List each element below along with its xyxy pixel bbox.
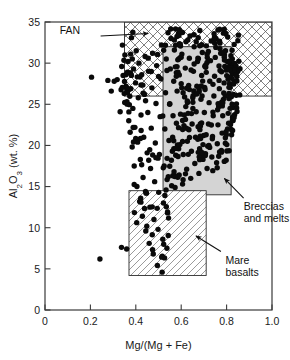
data-point [170,135,175,140]
data-point [122,52,127,57]
data-point [180,177,185,182]
y-tick-label: 20 [28,139,40,151]
data-point [145,110,150,115]
data-point [226,85,231,90]
data-point [149,85,154,90]
data-point [223,135,228,140]
data-point [229,48,234,53]
data-point [136,60,141,65]
x-tick-label: 0.4 [128,315,143,327]
data-point [204,60,209,65]
data-point [183,171,188,176]
data-point [139,162,144,167]
data-point [210,136,215,141]
data-point [159,269,164,274]
data-point [105,78,110,83]
data-point [129,35,134,40]
data-point [194,91,199,96]
data-point [206,100,211,105]
data-point [152,179,157,184]
data-point [138,199,143,204]
data-point [146,241,151,246]
data-point [214,160,219,165]
data-point [191,32,196,37]
data-point [153,140,158,145]
data-point [146,158,151,163]
y-tick-label: 10 [28,222,40,234]
data-point [223,31,228,36]
data-point [173,42,178,47]
data-point [163,43,168,48]
data-point [226,120,231,125]
data-point [120,85,125,90]
x-tick-label: 1.0 [265,315,280,327]
data-point [215,122,220,127]
data-point [178,55,183,60]
data-point [197,157,202,162]
x-tick-label: 0.2 [83,315,98,327]
data-point [134,220,139,225]
data-point [209,154,214,159]
data-point [167,101,172,106]
data-point [149,69,154,74]
data-point [173,146,178,151]
data-point [130,56,135,61]
data-point [164,177,169,182]
data-point [138,128,143,133]
data-point [227,58,232,63]
data-point [166,215,171,220]
scatter-plot-figure: 00.20.40.60.81.0 05101520253035 FANBrecc… [0,0,290,360]
y-tick-label: 25 [28,98,40,110]
data-point [127,130,132,135]
data-point [174,73,179,78]
data-point [204,166,209,171]
data-point [153,155,158,160]
data-point [171,169,176,174]
data-point [119,64,124,69]
chart-canvas: 00.20.40.60.81.0 05101520253035 FANBrecc… [0,0,290,360]
data-point [231,115,236,120]
data-point [196,171,201,176]
data-point [234,109,239,114]
data-point [188,176,193,181]
data-point [133,80,138,85]
data-point [234,78,239,83]
data-point [213,45,218,50]
data-point [144,224,149,229]
data-point [202,110,207,115]
data-point [150,247,155,252]
data-point [134,48,139,53]
x-tick-label: 0.8 [219,315,234,327]
data-point [183,65,188,70]
data-point [143,190,148,195]
data-point [167,164,172,169]
data-point [128,51,133,56]
data-point [172,185,177,190]
data-point [155,52,160,57]
data-point [140,90,145,95]
data-point [190,106,195,111]
data-point [223,140,228,145]
data-point [184,167,189,172]
data-point [138,157,143,162]
data-point [140,82,145,87]
data-point [119,245,124,250]
data-point [132,163,137,168]
data-point [142,206,147,211]
y-tick-label: 0 [34,304,40,316]
data-point [222,57,227,62]
data-point [143,228,148,233]
data-point [206,49,211,54]
data-point [217,40,222,45]
data-point [178,42,183,47]
data-point [153,101,158,106]
data-point [170,113,175,118]
data-point [195,137,200,142]
label-mare-basalts: Mare [225,254,249,266]
data-point [172,47,177,52]
y-tick-label: 15 [28,180,40,192]
data-point [219,69,224,74]
data-point [195,55,200,60]
data-point [161,242,166,247]
data-point [124,101,129,106]
